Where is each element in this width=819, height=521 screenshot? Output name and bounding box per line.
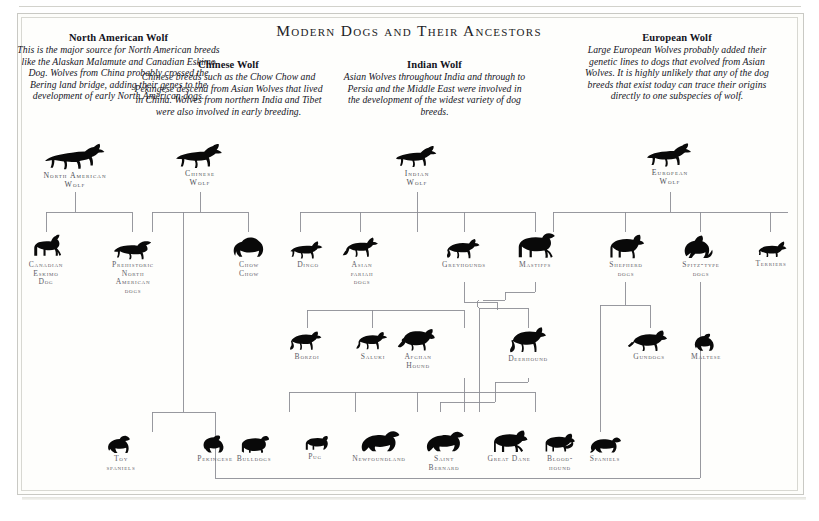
dog-silhouette-icon <box>744 239 798 259</box>
ancestor-note-european-wolf: European Wolf Large European Wolves prob… <box>573 32 781 102</box>
dog-silhouette-icon <box>224 434 284 454</box>
node-label: Shepherd dogs <box>595 261 657 278</box>
node-terriers: Terriers <box>744 239 798 269</box>
ancestor-note-title: Chinese Wolf <box>132 59 325 70</box>
wolf-silhouette-icon <box>163 143 237 169</box>
wolf-silhouette-icon <box>383 145 451 169</box>
node-label: North American Wolf <box>33 172 117 189</box>
ancestor-note-title: North American Wolf <box>16 32 221 43</box>
node-label: Maltese <box>681 353 731 362</box>
node-pug: Pug <box>290 434 340 462</box>
dog-silhouette-icon <box>14 234 78 260</box>
node-label: Dingo <box>280 261 336 270</box>
node-mastiffs: Mastiffs <box>505 232 565 270</box>
wolf-silhouette-icon <box>33 141 117 171</box>
node-label: Chow Chow <box>221 261 277 278</box>
wolf-silhouette-icon <box>636 143 704 168</box>
dog-silhouette-icon <box>477 430 541 454</box>
node-spaniels: Spaniels <box>578 434 632 464</box>
node-label: European Wolf <box>636 169 704 186</box>
poster-drop-shadow <box>22 497 806 500</box>
dog-silhouette-icon <box>414 430 474 454</box>
node-label: Indian Wolf <box>383 170 451 187</box>
node-asian-pariah-dogs: Asian pariah dogs <box>333 236 391 287</box>
page-top-rule <box>19 6 801 7</box>
node-label: Spaniels <box>578 455 632 464</box>
dog-silhouette-icon <box>505 232 565 260</box>
infographic-page: Modern Dogs and Their Ancestors North Am… <box>0 0 819 521</box>
node-label: Newfoundland <box>341 455 417 464</box>
node-canadian-eskimo-dog: Canadian Eskimo Dog <box>14 234 78 287</box>
node-label: Greyhounds <box>430 261 498 270</box>
node-chinese-wolf: Chinese Wolf <box>163 143 237 187</box>
ancestor-note-text: Large European Wolves probably added the… <box>573 44 781 102</box>
node-label: Great Dane <box>477 455 541 464</box>
node-label: Prehistoric North American dogs <box>98 261 168 295</box>
ancestor-note-text: Asian Wolves throughout India and throug… <box>343 71 526 117</box>
dog-silhouette-icon <box>221 235 277 260</box>
node-label: Mastiffs <box>505 261 565 270</box>
node-saint-bernard: Saint Bernard <box>414 430 474 472</box>
dog-silhouette-icon <box>290 434 340 452</box>
ancestor-note-indian-wolf: Indian Wolf Asian Wolves throughout Indi… <box>343 59 526 117</box>
dog-silhouette-icon <box>595 234 657 260</box>
ancestor-note-title: Indian Wolf <box>343 59 526 70</box>
node-label: Toy spaniels <box>96 455 146 472</box>
page-title: Modern Dogs and Their Ancestors <box>219 22 599 40</box>
node-label: Asian pariah dogs <box>333 261 391 287</box>
dog-silhouette-icon <box>430 238 498 260</box>
node-toy-spaniels: Toy spaniels <box>96 434 146 472</box>
ancestor-note-text: Chinese breeds such as the Chow Chow and… <box>132 71 325 117</box>
node-label: Canadian Eskimo Dog <box>14 261 78 287</box>
node-label: Spitz-type dogs <box>671 261 731 278</box>
node-indian-wolf: Indian Wolf <box>383 145 451 187</box>
node-label: Pug <box>290 453 340 462</box>
node-label: Chinese Wolf <box>163 170 237 187</box>
dog-silhouette-icon <box>671 234 731 260</box>
node-borzoi: Borzoi <box>280 330 334 362</box>
dog-silhouette-icon <box>98 240 168 260</box>
node-label: Deerhound <box>493 355 563 364</box>
node-gundogs: Gundogs <box>620 330 678 362</box>
node-deerhound: Deerhound <box>493 326 563 364</box>
ancestor-note-chinese-wolf: Chinese Wolf Chinese breeds such as the … <box>132 59 325 117</box>
node-greyhounds: Greyhounds <box>430 238 498 270</box>
node-dingo: Dingo <box>280 240 336 270</box>
dog-silhouette-icon <box>280 240 336 260</box>
node-north-american-wolf: North American Wolf <box>33 141 117 189</box>
node-maltese: Maltese <box>681 332 731 362</box>
dog-silhouette-icon <box>392 328 444 352</box>
node-label: Terriers <box>744 260 798 269</box>
dog-silhouette-icon <box>333 236 391 260</box>
node-bulldogs: Bulldogs <box>224 434 284 464</box>
dog-silhouette-icon <box>341 430 417 454</box>
node-label: Saint Bernard <box>414 455 474 472</box>
node-label: Borzoi <box>280 353 334 362</box>
node-label: Gundogs <box>620 353 678 362</box>
node-shepherd-dogs: Shepherd dogs <box>595 234 657 278</box>
node-european-wolf: European Wolf <box>636 143 704 186</box>
dog-silhouette-icon <box>681 332 731 352</box>
node-chow-chow: Chow Chow <box>221 235 277 278</box>
dog-silhouette-icon <box>578 434 632 454</box>
node-great-dane: Great Dane <box>477 430 541 464</box>
node-prehistoric-north-american-dogs: Prehistoric North American dogs <box>98 240 168 295</box>
dog-silhouette-icon <box>280 330 334 352</box>
node-afghan-hound: Afghan Hound <box>392 328 444 370</box>
node-label: Afghan Hound <box>392 353 444 370</box>
node-spitz-type-dogs: Spitz-type dogs <box>671 234 731 278</box>
node-label: Bulldogs <box>224 455 284 464</box>
dog-silhouette-icon <box>96 434 146 454</box>
node-newfoundland: Newfoundland <box>341 430 417 464</box>
ancestor-note-title: European Wolf <box>573 32 781 43</box>
dog-silhouette-icon <box>620 330 678 352</box>
dog-silhouette-icon <box>493 326 563 354</box>
